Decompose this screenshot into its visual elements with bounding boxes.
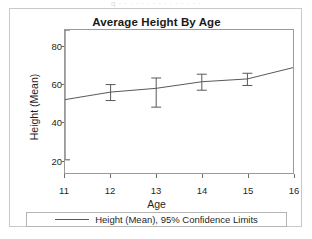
x-tick-mark	[110, 174, 111, 178]
y-tick-label: 80	[36, 41, 62, 52]
error-bar	[65, 30, 70, 160]
x-tick-mark	[248, 174, 249, 178]
x-tick-label: 16	[279, 185, 309, 196]
x-tick-label: 12	[95, 185, 125, 196]
chart-card: Average Height By Age Height (Mean) 2040…	[9, 8, 302, 227]
line-swatch-icon	[55, 219, 89, 220]
x-tick-mark	[294, 174, 295, 178]
x-tick-mark	[64, 174, 65, 178]
legend-label: Height (Mean), 95% Confidence Limits	[95, 214, 258, 225]
x-tick-label: 14	[187, 185, 217, 196]
x-tick-mark	[202, 174, 203, 178]
x-tick-label: 13	[141, 185, 171, 196]
plot-canvas	[65, 30, 293, 173]
x-axis-title: Age	[10, 198, 303, 210]
x-tick-label: 15	[233, 185, 263, 196]
x-tick-label: 11	[49, 185, 79, 196]
error-bar	[151, 78, 161, 107]
y-tick-label: 60	[36, 79, 62, 90]
plot-area	[64, 29, 294, 174]
y-tick-label: 40	[36, 117, 62, 128]
y-tick-label: 20	[36, 155, 62, 166]
chart-legend: Height (Mean), 95% Confidence Limits	[26, 212, 287, 227]
scan-top-clipped-text: g · · · · · · · · · · · · · · ·	[0, 0, 312, 7]
x-tick-mark	[156, 174, 157, 178]
mean-line	[65, 68, 293, 100]
